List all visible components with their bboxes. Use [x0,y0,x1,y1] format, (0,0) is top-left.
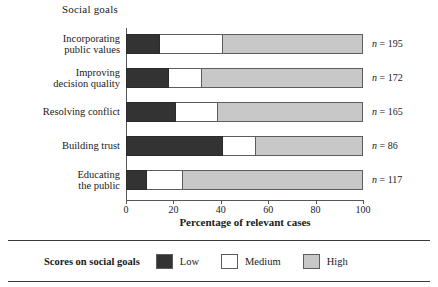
bar-row [126,102,363,122]
bar-segment-low [126,34,160,54]
plot-area [126,28,363,200]
sample-size-label: n = 86 [372,140,398,151]
legend-swatch-medium [221,254,238,269]
category-label: Resolving conflict [43,106,120,118]
legend-swatch-high [303,254,320,269]
category-label: Incorporating public values [63,33,120,56]
bar-segment-low [126,170,147,190]
x-axis-tick-label: 40 [216,204,226,215]
legend-item-high: High [303,254,348,269]
stacked-bar-chart: Social goals Percentage of relevant case… [0,0,438,232]
bar-segment-low [126,136,223,156]
x-axis-tick-label: 20 [168,204,178,215]
bar-segment-high [202,68,363,88]
bar-row [126,34,363,54]
legend-swatch-low [156,254,173,269]
legend-caption: Scores on social goals [44,256,140,267]
bar-segment-medium [169,68,202,88]
bar-segment-high [256,136,363,156]
bar-row [126,136,363,156]
category-label: Improving decision quality [53,67,120,90]
bar-segment-low [126,68,169,88]
sample-size-label: n = 195 [372,38,403,49]
bar-row [126,170,363,190]
bar-segment-medium [176,102,219,122]
legend-label-high: High [327,256,348,267]
legend-item-low: Low [156,254,199,269]
legend: Scores on social goals Low Medium High [8,240,430,282]
sample-size-label: n = 117 [372,174,402,185]
sample-size-label: n = 172 [372,72,403,83]
legend-label-low: Low [180,256,199,267]
x-axis-tick-label: 60 [263,204,273,215]
x-axis-title: Percentage of relevant cases [126,216,364,228]
legend-item-medium: Medium [221,254,281,269]
bar-segment-low [126,102,176,122]
sample-size-label: n = 165 [372,106,403,117]
bar-segment-medium [160,34,223,54]
x-axis-tick-label: 0 [124,204,129,215]
chart-title: Social goals [62,3,118,15]
x-axis-tick-label: 100 [356,204,371,215]
bar-segment-high [223,34,363,54]
bar-segment-high [218,102,363,122]
category-label: Educating the public [77,169,120,192]
x-axis-line [126,200,364,201]
legend-label-medium: Medium [245,256,281,267]
bar-segment-high [183,170,363,190]
category-label: Building trust [62,140,120,152]
bar-segment-medium [147,170,183,190]
x-axis-tick-label: 80 [311,204,321,215]
bar-row [126,68,363,88]
bar-segment-medium [223,136,256,156]
